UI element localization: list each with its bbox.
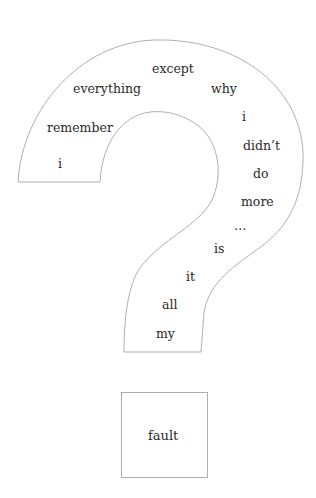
word-is: is bbox=[214, 243, 224, 256]
word-all: all bbox=[162, 299, 177, 312]
question-mark-poem: except everything why remember i didn’t … bbox=[0, 0, 316, 498]
word-i-right: i bbox=[242, 111, 246, 124]
word-more: more bbox=[241, 196, 274, 209]
word-ellipsis: … bbox=[234, 220, 247, 233]
word-i-left: i bbox=[58, 158, 62, 171]
word-everything: everything bbox=[73, 83, 141, 96]
word-didnt: didn’t bbox=[243, 140, 280, 153]
word-my: my bbox=[156, 328, 175, 341]
word-except: except bbox=[152, 63, 194, 76]
word-remember: remember bbox=[47, 122, 113, 135]
word-fault: fault bbox=[148, 429, 178, 442]
word-why: why bbox=[211, 83, 237, 96]
word-do: do bbox=[253, 168, 269, 181]
word-it: it bbox=[186, 271, 195, 284]
